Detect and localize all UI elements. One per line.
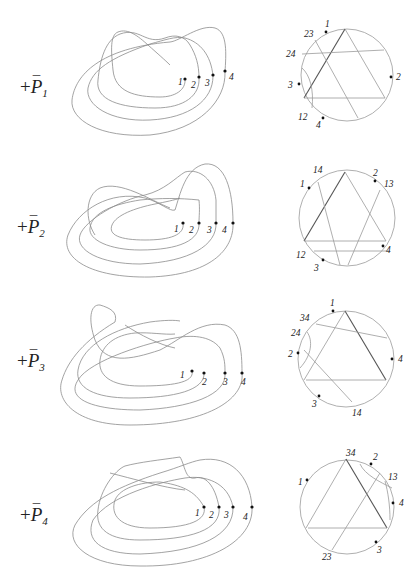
curve-point-2: 2 bbox=[209, 510, 214, 520]
row-p2: +¯P2 1 2 3 4 1 2 3 4 14 13 12 bbox=[0, 140, 419, 280]
gauss-point-2: 2 bbox=[373, 168, 378, 178]
curve-point-3: 3 bbox=[223, 510, 229, 520]
gauss-point-3: 3 bbox=[376, 545, 382, 555]
gauss-point-4: 4 bbox=[386, 245, 391, 255]
chord-label: 23 bbox=[322, 552, 332, 562]
curve-point-1: 1 bbox=[195, 508, 200, 518]
chord-label: 13 bbox=[384, 179, 394, 189]
curve-diagram-p4: 1 2 3 4 bbox=[0, 430, 280, 582]
chord-label: 14 bbox=[352, 408, 362, 418]
gauss-point-3: 3 bbox=[313, 263, 319, 273]
curve-point-2: 2 bbox=[202, 377, 207, 387]
gauss-point-1: 2 bbox=[288, 349, 293, 359]
curve-point-2: 2 bbox=[191, 80, 196, 90]
chord-label: 13 bbox=[388, 472, 398, 482]
curve-point-1: 1 bbox=[174, 224, 179, 234]
gauss-point-4: 4 bbox=[316, 120, 321, 130]
gauss-point-1: 1 bbox=[300, 179, 305, 189]
curve-point-1: 1 bbox=[180, 370, 185, 380]
gauss-point-1: 1 bbox=[298, 477, 303, 487]
row-p1: +¯P1 1 2 3 4 1 2 3 4 23 24 12 bbox=[0, 0, 419, 140]
chord-label: 14 bbox=[313, 165, 323, 175]
gauss-point-1: 1 bbox=[325, 19, 330, 29]
gauss-diagram-p1: 1 2 3 4 23 24 12 bbox=[280, 0, 419, 140]
chord-label: 12 bbox=[296, 250, 306, 260]
curve-diagram-p1: 1 2 3 4 bbox=[0, 0, 280, 140]
gauss-diagram-p4: 1 2 3 4 34 13 23 bbox=[280, 430, 419, 582]
chord-label: 23 bbox=[304, 29, 314, 39]
curve-point-2: 2 bbox=[189, 225, 194, 235]
gauss-point-2: 2 bbox=[373, 452, 378, 462]
gauss-point-4: 4 bbox=[398, 354, 403, 364]
gauss-point-4: 4 bbox=[399, 498, 404, 508]
chord-label: 24 bbox=[286, 49, 296, 59]
chord-label: 34 bbox=[345, 448, 356, 458]
curve-point-1: 1 bbox=[178, 77, 183, 87]
gauss-diagram-p3: 1 2 3 4 34 24 14 bbox=[280, 280, 419, 430]
gauss-point-2: 1 bbox=[330, 298, 335, 308]
gauss-diagram-p2: 1 2 3 4 14 13 12 bbox=[280, 140, 419, 280]
curve-point-4: 4 bbox=[229, 72, 234, 82]
chord-label: 12 bbox=[298, 112, 308, 122]
gauss-point-3: 3 bbox=[311, 399, 317, 409]
curve-point-3: 3 bbox=[204, 78, 210, 88]
curve-point-4: 4 bbox=[243, 512, 248, 522]
curve-point-4: 4 bbox=[241, 377, 246, 387]
gauss-point-3: 3 bbox=[287, 80, 293, 90]
curve-point-3: 3 bbox=[206, 225, 212, 235]
curve-diagram-p2: 1 2 3 4 bbox=[0, 140, 280, 280]
curve-diagram-p3: 1 2 3 4 bbox=[0, 280, 280, 430]
chord-label: 24 bbox=[291, 328, 301, 338]
curve-point-3: 3 bbox=[222, 377, 228, 387]
row-p3: +¯P3 1 2 3 4 1 2 3 4 34 24 14 bbox=[0, 280, 419, 430]
chord-label: 34 bbox=[299, 313, 310, 323]
row-p4: +¯P4 1 2 3 4 1 2 3 4 34 13 23 bbox=[0, 430, 419, 582]
curve-point-4: 4 bbox=[222, 225, 227, 235]
gauss-point-2: 2 bbox=[396, 72, 401, 82]
